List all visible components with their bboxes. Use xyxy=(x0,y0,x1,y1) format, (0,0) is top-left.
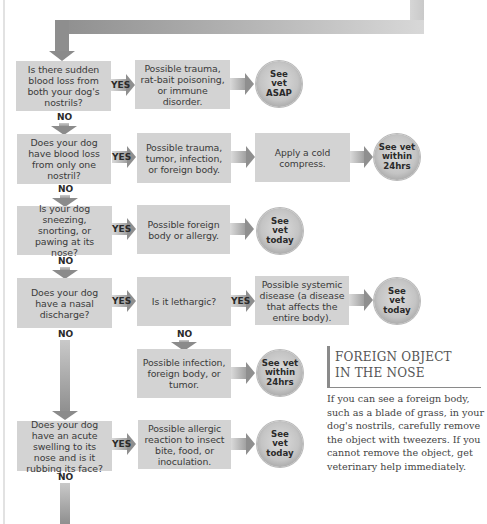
no-label-3: NO xyxy=(58,256,73,266)
question-box-4: Does your dog have a nasal discharge? xyxy=(17,278,112,328)
outcome-badge-1: See vet ASAP xyxy=(256,61,302,107)
sub-no-outcome-badge: See vet within 24hrs xyxy=(257,350,303,396)
question-box-5: Does your dog have an acute swelling to … xyxy=(17,421,112,471)
no-arrow-4 xyxy=(52,340,78,420)
sub-no-arrow-to-outcome xyxy=(231,362,255,384)
outcome-text-5: See vet today xyxy=(263,430,297,459)
arrow-to-outcome-2 xyxy=(350,146,373,168)
cause-box-3: Possible foreign body or allergy. xyxy=(137,205,230,254)
cause-box-2: Possible trauma, tumor, infection, or fo… xyxy=(137,133,231,183)
question-box-2: Does your dog have blood loss from only … xyxy=(17,134,111,184)
sub-no-label: NO xyxy=(177,329,192,339)
sub-yes-label: YES xyxy=(231,296,250,306)
arrow-to-outcome-1 xyxy=(230,73,254,95)
outcome-badge-5: See vet today xyxy=(257,421,303,467)
yes-label-4: YES xyxy=(112,296,131,306)
yes-label-1: YES xyxy=(111,80,130,90)
outcome-badge-3: See vet today xyxy=(257,208,303,254)
sidebar-heading: FOREIGN OBJECT IN THE NOSE xyxy=(327,346,481,388)
arrow-to-outcome-3 xyxy=(230,218,254,240)
outcome-text-3: See vet today xyxy=(263,217,297,246)
yes-label-2: YES xyxy=(112,152,131,162)
no-label-5: NO xyxy=(58,472,73,482)
no-label-4: NO xyxy=(58,329,73,339)
no-label-1: NO xyxy=(57,112,72,122)
yes-label-5: YES xyxy=(112,439,131,449)
sidebar-heading-line1: FOREIGN OBJECT xyxy=(335,349,481,365)
sub-yes-cause-box: Possible systemic disease (a disease tha… xyxy=(255,276,349,325)
outcome-text-1: See vet ASAP xyxy=(262,70,296,99)
cause-box-1: Possible trauma, rat-bait poisoning, or … xyxy=(135,60,230,109)
sidebar-heading-line2: IN THE NOSE xyxy=(335,365,481,381)
question-box-1: Is there sudden blood loss from both you… xyxy=(16,61,111,111)
action-box-2: Apply a cold compress. xyxy=(255,133,350,182)
outcome-badge-2: See vet within 24hrs xyxy=(374,134,420,180)
no-arrow-5 xyxy=(52,483,78,524)
outcome-text-2: See vet within 24hrs xyxy=(377,143,417,172)
sub-yes-outcome-text: See vet today xyxy=(380,287,414,316)
sub-yes-arrow-to-outcome xyxy=(349,289,373,311)
sub-no-cause-box: Possible infection, foreign body, or tum… xyxy=(137,349,231,398)
sub-question-box: Is it lethargic? xyxy=(137,277,231,326)
sub-no-outcome-text: See vet within 24hrs xyxy=(260,359,300,388)
arrow-to-outcome-5 xyxy=(231,433,255,455)
cause-box-5: Possible allergic reaction to insect bit… xyxy=(138,420,231,469)
yes-label-3: YES xyxy=(112,224,131,234)
arrow-to-action-2 xyxy=(231,146,255,168)
sub-yes-outcome-badge: See vet today xyxy=(374,278,420,324)
sidebar-body-text: If you can see a foreign body, such as a… xyxy=(327,392,487,474)
page-margin-line xyxy=(3,0,5,524)
question-box-3: Is your dog sneezing, snorting, or pawin… xyxy=(17,206,112,255)
no-label-2: NO xyxy=(58,184,73,194)
